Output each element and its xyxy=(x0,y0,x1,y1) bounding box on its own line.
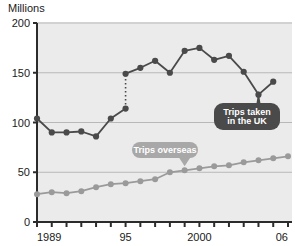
data-point xyxy=(122,71,128,77)
data-point xyxy=(226,53,232,59)
data-point xyxy=(49,189,55,195)
data-point xyxy=(255,157,261,163)
data-point xyxy=(167,70,173,76)
data-point xyxy=(64,190,70,196)
data-point xyxy=(182,48,188,54)
data-point xyxy=(63,129,69,135)
data-point xyxy=(93,133,99,139)
callout-label: Trips overseas xyxy=(133,145,196,155)
callout-label: in the UK xyxy=(227,116,267,126)
y-tick-label: 0 xyxy=(24,216,30,228)
data-point xyxy=(34,115,40,121)
y-tick-label: 150 xyxy=(12,67,30,79)
data-point xyxy=(137,65,143,71)
data-point xyxy=(137,178,143,184)
data-point xyxy=(182,167,188,173)
data-point xyxy=(196,165,202,171)
data-point xyxy=(152,176,158,182)
chart-container: 050100150200198995200006MillionsTrips ta… xyxy=(0,0,295,246)
x-axis: 198995200006 xyxy=(33,222,292,243)
data-point xyxy=(211,57,217,63)
data-point xyxy=(226,162,232,168)
x-tick-label: 1989 xyxy=(37,231,61,243)
data-point xyxy=(152,58,158,64)
data-point xyxy=(122,105,128,111)
data-point xyxy=(93,184,99,190)
data-point xyxy=(241,69,247,75)
data-point xyxy=(196,45,202,51)
data-point xyxy=(78,128,84,134)
data-point xyxy=(270,155,276,161)
data-point xyxy=(270,79,276,85)
data-point xyxy=(123,180,129,186)
data-point xyxy=(34,191,40,197)
data-point xyxy=(167,169,173,175)
line-chart: 050100150200198995200006MillionsTrips ta… xyxy=(0,0,295,246)
data-point xyxy=(285,153,291,159)
data-point xyxy=(49,129,55,135)
x-tick-label: 95 xyxy=(119,231,131,243)
data-point xyxy=(241,159,247,165)
y-tick-label: 50 xyxy=(18,166,30,178)
y-axis-title: Millions xyxy=(8,2,45,14)
x-tick-label: 2000 xyxy=(187,231,211,243)
data-point xyxy=(211,163,217,169)
x-tick-label: 06 xyxy=(276,231,288,243)
data-point xyxy=(78,188,84,194)
y-tick-label: 200 xyxy=(12,17,30,29)
y-tick-label: 100 xyxy=(12,117,30,129)
y-axis: 050100150200 xyxy=(12,17,37,228)
data-point xyxy=(108,115,114,121)
data-point xyxy=(108,181,114,187)
